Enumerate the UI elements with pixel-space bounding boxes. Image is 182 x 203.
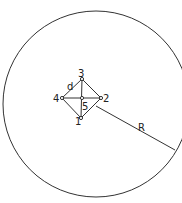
node-4 xyxy=(60,96,63,99)
radius-label: R xyxy=(138,122,145,133)
node-label-4: 4 xyxy=(53,93,59,104)
node-label-5: 5 xyxy=(82,101,88,112)
radius-line xyxy=(96,106,175,150)
diagram-canvas: 1 2 3 4 5 d R xyxy=(0,0,182,203)
outer-circle xyxy=(3,11,182,197)
node-label-1: 1 xyxy=(75,116,81,127)
node-label-2: 2 xyxy=(103,93,109,104)
spacing-label: d xyxy=(67,81,73,92)
node-label-3: 3 xyxy=(78,68,84,79)
node-5 xyxy=(80,96,83,99)
